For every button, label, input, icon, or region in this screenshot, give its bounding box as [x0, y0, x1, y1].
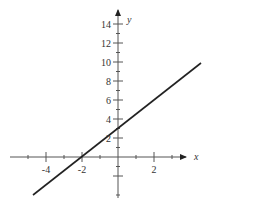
x-axis-label: x — [193, 151, 199, 162]
y-tick-label: 2 — [106, 133, 111, 144]
x-tick-label: -2 — [78, 164, 86, 175]
y-tick-label: 6 — [106, 95, 111, 106]
data-line — [33, 63, 201, 195]
y-tick-label: 4 — [106, 114, 111, 125]
y-tick-label: 12 — [101, 38, 111, 49]
x-tick-label: -4 — [42, 164, 50, 175]
y-tick-label: 10 — [101, 57, 111, 68]
y-tick-label: 14 — [101, 19, 111, 30]
y-axis-label: y — [126, 14, 132, 25]
y-tick-label: 8 — [106, 76, 111, 87]
x-tick-label: 2 — [152, 164, 157, 175]
chart: -4 -2 2 2 4 6 8 10 12 14 x y — [0, 0, 260, 202]
